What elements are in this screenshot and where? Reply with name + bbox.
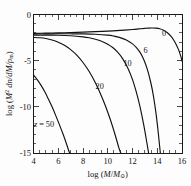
x-tick-label: 10 xyxy=(104,156,113,166)
labels-layer: 468101214160-5-10-15061020z = 50log (M/M… xyxy=(4,10,187,180)
y-tick-label: 0 xyxy=(27,10,31,20)
curves-clip-group xyxy=(34,28,183,153)
x-tick-label: 8 xyxy=(81,156,85,166)
x-tick-label: 6 xyxy=(56,156,60,166)
x-tick-label: 14 xyxy=(153,156,162,166)
x-axis-title: log (M/M⊙) xyxy=(88,169,129,179)
curve-label-z-10: 10 xyxy=(123,59,131,68)
y-axis-title: log (M2 dn/dM/ρm) xyxy=(4,51,14,116)
figure-root: 468101214160-5-10-15061020z = 50log (M/M… xyxy=(0,0,191,186)
curve-label-z-50: z = 50 xyxy=(33,120,54,129)
curves-layer xyxy=(34,28,183,153)
x-tick-label: 16 xyxy=(178,156,187,166)
y-tick-label: -10 xyxy=(20,102,31,112)
curve-label-z-0: 0 xyxy=(162,29,166,38)
x-tick-label: 12 xyxy=(128,156,137,166)
curve-z-10 xyxy=(34,35,149,153)
y-tick-label: -15 xyxy=(20,148,31,158)
curve-label-z-20: 20 xyxy=(96,82,104,91)
curve-z-50 xyxy=(34,75,70,153)
mass-function-plot: 468101214160-5-10-15061020z = 50log (M/M… xyxy=(0,0,191,186)
curve-z-6 xyxy=(34,34,161,153)
y-tick-label: -5 xyxy=(24,56,31,66)
curve-label-z-6: 6 xyxy=(143,46,147,55)
x-tick-label: 4 xyxy=(31,156,36,166)
